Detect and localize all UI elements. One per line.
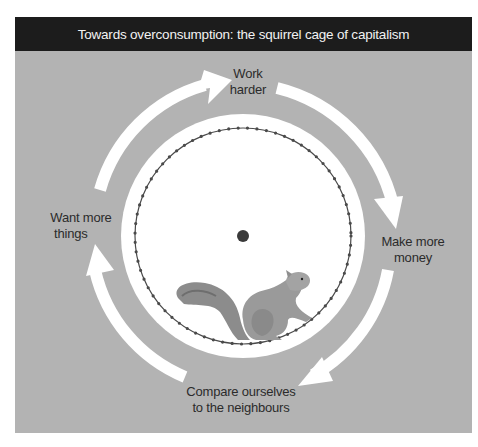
step-want-more-things: Want more things <box>46 210 116 242</box>
step-make-more-money: Make more money <box>373 234 453 266</box>
wheel-axle <box>237 230 249 242</box>
arrowhead-left <box>86 244 114 276</box>
step-label-line: Work <box>218 66 278 82</box>
step-work-harder: Work harder <box>218 66 278 98</box>
step-label-line: things <box>46 226 116 242</box>
arrowhead-right <box>374 196 403 229</box>
step-label-line: to the neighbours <box>176 400 306 416</box>
step-label-line: Make more <box>373 234 453 250</box>
step-compare-to-neighbours: Compare ourselves to the neighbours <box>176 384 306 416</box>
step-label-line: Compare ourselves <box>176 384 306 400</box>
step-label-line: money <box>373 250 453 266</box>
step-label-line: Want more <box>46 210 116 226</box>
step-label-line: harder <box>218 82 278 98</box>
